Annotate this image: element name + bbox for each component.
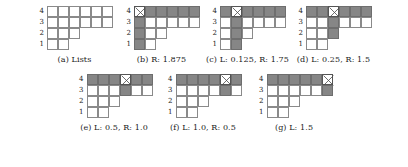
axis-label-1: 1 — [165, 107, 173, 118]
grid-cell — [187, 96, 198, 107]
grid-row-2 — [306, 28, 372, 39]
panel-body: 4321 — [165, 74, 242, 118]
grid-cell — [289, 85, 300, 96]
grid-cell-blank — [300, 96, 311, 107]
grid-cell-blank — [102, 39, 113, 50]
grid-cell — [47, 39, 58, 50]
grid-cell-blank — [91, 28, 102, 39]
grid-row-4 — [306, 6, 372, 17]
grid-cell — [80, 6, 91, 17]
row-axis: 4321 — [165, 74, 173, 118]
panel-caption-c: (c) L: 0.125, R: 1.75 — [206, 55, 289, 64]
grid-cell-shaded — [231, 28, 242, 39]
grid-cell — [317, 17, 328, 28]
grid-cell-shaded — [322, 85, 333, 96]
grid-cell — [102, 6, 113, 17]
grid-cell-blank — [350, 39, 361, 50]
row-axis: 4321 — [295, 6, 303, 50]
grid-cell — [311, 85, 322, 96]
axis-label-2: 2 — [165, 96, 173, 107]
panel-body: 4321 — [36, 6, 113, 50]
grid-cell — [87, 85, 98, 96]
grid-cell-blank — [109, 107, 120, 118]
grid-row-1 — [134, 39, 200, 50]
grid-row-3 — [306, 17, 372, 28]
grid-row-3 — [87, 85, 153, 96]
grid-cell — [220, 28, 231, 39]
grid-cell-blank — [80, 28, 91, 39]
grid-cell — [209, 85, 220, 96]
grid-cell — [231, 85, 242, 96]
grid-row-2 — [87, 96, 153, 107]
axis-label-3: 3 — [209, 17, 217, 28]
grid-cell-blank — [178, 39, 189, 50]
grid-cell-blank — [339, 28, 350, 39]
grid-row-4 — [220, 6, 286, 17]
grid-row-1 — [306, 39, 372, 50]
row-axis: 4321 — [123, 6, 131, 50]
grid-cell-blank — [120, 96, 131, 107]
grid-cell — [242, 17, 253, 28]
grid-cell-shaded — [209, 74, 220, 85]
grid-cell-blank — [339, 39, 350, 50]
grid-cell — [220, 17, 231, 28]
grid-cell — [300, 85, 311, 96]
diagram-grid — [47, 6, 113, 50]
axis-label-3: 3 — [76, 85, 84, 96]
grid-cell-shaded — [134, 17, 145, 28]
axis-label-1: 1 — [295, 39, 303, 50]
grid-row-1 — [267, 107, 333, 118]
grid-row-2 — [134, 28, 200, 39]
axis-label-4: 4 — [123, 6, 131, 17]
panel-caption-g: (g) L: 1.5 — [275, 123, 313, 132]
grid-cell — [275, 17, 286, 28]
diagram-panel-e: 4321(e) L: 0.5, R: 1.0 — [76, 74, 153, 132]
grid-cell — [267, 96, 278, 107]
grid-cell — [187, 107, 198, 118]
panel-caption-f: (f) L: 1.0, R: 0.5 — [170, 123, 236, 132]
grid-cell-blank — [167, 28, 178, 39]
grid-cell — [339, 17, 350, 28]
grid-cell-blank — [264, 28, 275, 39]
grid-cell — [98, 96, 109, 107]
grid-cell-shaded — [220, 85, 231, 96]
diagram-panel-f: 4321(f) L: 1.0, R: 0.5 — [165, 74, 242, 132]
grid-cell — [289, 96, 300, 107]
panel-body: 4321 — [209, 6, 286, 50]
grid-row-3 — [267, 85, 333, 96]
row-axis: 4321 — [209, 6, 217, 50]
diagram-panel-g: 4321(g) L: 1.5 — [256, 74, 333, 132]
grid-cell-shaded — [109, 74, 120, 85]
grid-cell — [47, 17, 58, 28]
grid-cell — [187, 85, 198, 96]
grid-cell-blank — [120, 107, 131, 118]
diagram-panel-d: 4321(d) L: 0.25, R: 1.5 — [295, 6, 372, 64]
grid-cell — [142, 85, 153, 96]
grid-cell-shaded — [134, 39, 145, 50]
grid-cell — [156, 28, 167, 39]
grid-cell-shaded — [187, 74, 198, 85]
grid-cell-shaded — [231, 74, 242, 85]
grid-cell-blank — [220, 96, 231, 107]
grid-cell-blank — [209, 96, 220, 107]
grid-row-2 — [267, 96, 333, 107]
grid-cell-blank — [300, 107, 311, 118]
grid-cell-blank — [242, 39, 253, 50]
grid-cell — [58, 6, 69, 17]
grid-cell-shaded — [178, 6, 189, 17]
grid-cell-blank — [189, 28, 200, 39]
x-cross-icon — [322, 74, 333, 85]
axis-label-3: 3 — [123, 17, 131, 28]
diagram-grid — [176, 74, 242, 118]
grid-cell-shaded — [156, 6, 167, 17]
grid-cell-blank — [361, 39, 372, 50]
grid-cell-shaded — [306, 6, 317, 17]
grid-cell-shaded — [361, 6, 372, 17]
axis-label-2: 2 — [256, 96, 264, 107]
grid-cell-blank — [102, 28, 113, 39]
diagram-grid — [87, 74, 153, 118]
grid-cell-shaded — [278, 74, 289, 85]
grid-cell-shaded — [328, 28, 339, 39]
grid-cell — [145, 28, 156, 39]
grid-cell-blank — [322, 107, 333, 118]
